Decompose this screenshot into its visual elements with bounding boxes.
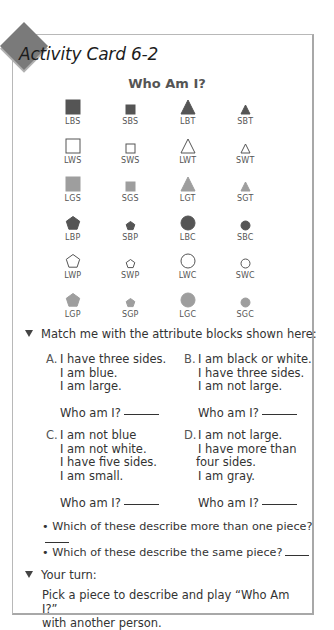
triangle-icon [240, 104, 251, 115]
answer-blank[interactable] [45, 542, 69, 543]
block-label: LBC [180, 233, 196, 242]
block-label: SBC [237, 233, 254, 242]
block-row: LWSSWSLWTSWT [44, 134, 274, 173]
block-sbt: SBT [217, 95, 275, 134]
block-row: LGPSGPLGCSGC [44, 288, 274, 327]
triangle-icon [180, 138, 196, 154]
block-label: LWS [64, 156, 81, 165]
page-title: Who Am I? [0, 76, 334, 91]
square-icon [125, 143, 136, 154]
prompt-text: Who am I? [198, 406, 259, 420]
clue-line: I have three sides. [198, 367, 312, 381]
block-lgt: LGT [159, 172, 217, 211]
block-swc: SWC [217, 249, 275, 288]
block-sbs: SBS [102, 95, 160, 134]
block-label: LWC [179, 271, 197, 280]
clue-line: I am blue. [60, 367, 166, 381]
block-swp: SWP [102, 249, 160, 288]
block-label: SBP [122, 233, 138, 242]
question-c: C. I am not blue I am not white. I have … [60, 429, 157, 483]
block-label: SWC [236, 271, 255, 280]
block-sbc: SBC [217, 211, 275, 250]
block-label: LGC [179, 310, 196, 319]
match-instruction: Match me with the attribute blocks shown… [25, 327, 317, 341]
clue-line: I am small. [60, 470, 157, 484]
block-lbp: LBP [44, 211, 102, 250]
block-label: SWP [121, 271, 139, 280]
clue-line: I am not white. [60, 443, 157, 457]
block-sbp: SBP [102, 211, 160, 250]
triangle-icon [240, 181, 251, 192]
question-d: D. I am not large. I have more than four… [198, 429, 297, 483]
pentagon-icon [125, 220, 136, 231]
clue-line: four sides. [196, 456, 297, 470]
triangle-bullet-icon [25, 571, 33, 578]
bullet-text: Which of these describe more than one pi… [52, 520, 312, 533]
clue-line: I have three sides. [60, 353, 166, 367]
who-am-i-d: Who am I? [198, 496, 297, 510]
block-lwp: LWP [44, 249, 102, 288]
block-lgp: LGP [44, 288, 102, 327]
block-row: LGSSGSLGTSGT [44, 172, 274, 211]
answer-blank[interactable] [124, 504, 159, 505]
clue-line: I am large. [60, 380, 166, 394]
question-a: A. I have three sides. I am blue. I am l… [60, 353, 166, 394]
triangle-icon [180, 176, 196, 192]
clue-line: I am black or white. [198, 353, 312, 367]
clue-line: I am not large. [198, 380, 312, 394]
who-am-i-c: Who am I? [60, 496, 159, 510]
question-letter: A. [46, 353, 57, 367]
text-line: Pick a piece to describe and play “Who A… [42, 588, 302, 616]
block-label: LGT [180, 194, 196, 203]
answer-blank[interactable] [262, 414, 297, 415]
circle-icon [240, 220, 251, 231]
block-label: SGT [237, 194, 253, 203]
answer-blank[interactable] [124, 414, 159, 415]
pentagon-icon [65, 292, 81, 308]
square-icon [125, 104, 136, 115]
block-label: SBS [122, 117, 138, 126]
block-sws: SWS [102, 134, 160, 173]
block-lws: LWS [44, 134, 102, 173]
block-label: SWT [236, 156, 254, 165]
circle-icon [180, 215, 196, 231]
block-row: LBSSBSLBTSBT [44, 95, 274, 134]
your-turn-text: Pick a piece to describe and play “Who A… [42, 588, 302, 630]
triangle-icon [180, 99, 196, 115]
circle-icon [240, 258, 251, 269]
text-line: with another person. [42, 616, 302, 630]
block-label: SGS [122, 194, 139, 203]
who-am-i-b: Who am I? [198, 406, 297, 420]
prompt-text: Who am I? [198, 496, 259, 510]
block-label: SGC [237, 310, 254, 319]
card-title: Activity Card 6-2 [19, 44, 158, 64]
triangle-bullet-icon [25, 330, 33, 337]
clue-line: I am not blue [60, 429, 157, 443]
circle-icon [180, 292, 196, 308]
block-row: LBPSBPLBCSBC [44, 211, 274, 250]
block-lwt: LWT [159, 134, 217, 173]
question-letter: C. [46, 429, 58, 443]
bullet-text: Which of these describe the same piece? [52, 546, 282, 559]
block-lgc: LGC [159, 288, 217, 327]
block-sgc: SGC [217, 288, 275, 327]
block-row: LWPSWPLWCSWC [44, 249, 274, 288]
pentagon-icon [125, 297, 136, 308]
square-icon [125, 181, 136, 192]
answer-blank[interactable] [262, 504, 297, 505]
your-turn-label: Your turn: [41, 568, 97, 582]
square-icon [65, 138, 81, 154]
question-letter: D. [184, 429, 197, 443]
clue-line: I have more than [198, 443, 297, 457]
pentagon-icon [65, 215, 81, 231]
block-lbs: LBS [44, 95, 102, 134]
block-sgt: SGT [217, 172, 275, 211]
block-label: LGS [65, 194, 81, 203]
instruction-text: Match me with the attribute blocks shown… [41, 327, 317, 341]
question-b: B. I am black or white. I have three sid… [198, 353, 312, 394]
square-icon [65, 176, 81, 192]
block-label: LGP [65, 310, 81, 319]
pentagon-icon [65, 253, 81, 269]
answer-blank[interactable] [285, 555, 309, 556]
attribute-blocks-grid: LBSSBSLBTSBTLWSSWSLWTSWTLGSSGSLGTSGTLBPS… [44, 95, 274, 326]
